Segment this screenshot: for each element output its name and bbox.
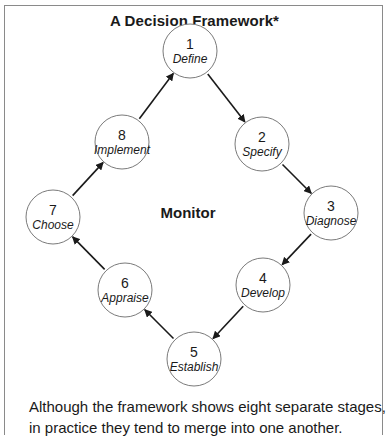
caption-line-2: in practice they tend to merge into one …	[29, 417, 386, 438]
stage-number: 4	[259, 270, 267, 286]
stage-label: Appraise	[101, 291, 148, 306]
stage-number: 1	[186, 36, 194, 52]
stage-2-specify: 2Specify	[234, 116, 290, 172]
stage-3-diagnose: 3Diagnose	[303, 185, 359, 241]
flow-arrow	[208, 74, 245, 122]
stage-label: Diagnose	[306, 214, 357, 229]
stage-6-appraise: 6Appraise	[97, 262, 153, 318]
caption-text: Although the framework shows eight separ…	[29, 396, 386, 438]
stage-number: 3	[327, 198, 335, 214]
stage-4-develop: 4Develop	[235, 257, 291, 313]
stage-label: Define	[173, 52, 208, 67]
stage-label: Specify	[242, 145, 281, 160]
stage-number: 5	[190, 344, 198, 360]
stage-8-implement: 8Implement	[94, 114, 150, 170]
stage-number: 8	[118, 127, 126, 143]
stage-number: 6	[121, 275, 129, 291]
stage-label: Establish	[170, 360, 219, 375]
stage-label: Implement	[94, 143, 150, 158]
stage-7-choose: 7Choose	[25, 189, 81, 245]
stage-number: 7	[49, 202, 57, 218]
stage-number: 2	[258, 129, 266, 145]
caption-line-1: Although the framework shows eight separ…	[29, 396, 386, 417]
center-label-monitor: Monitor	[150, 204, 226, 221]
stage-1-define: 1Define	[162, 23, 218, 79]
stage-5-establish: 5Establish	[166, 331, 222, 387]
stage-label: Develop	[241, 286, 285, 301]
flow-arrow	[139, 73, 173, 118]
stage-label: Choose	[32, 218, 73, 233]
